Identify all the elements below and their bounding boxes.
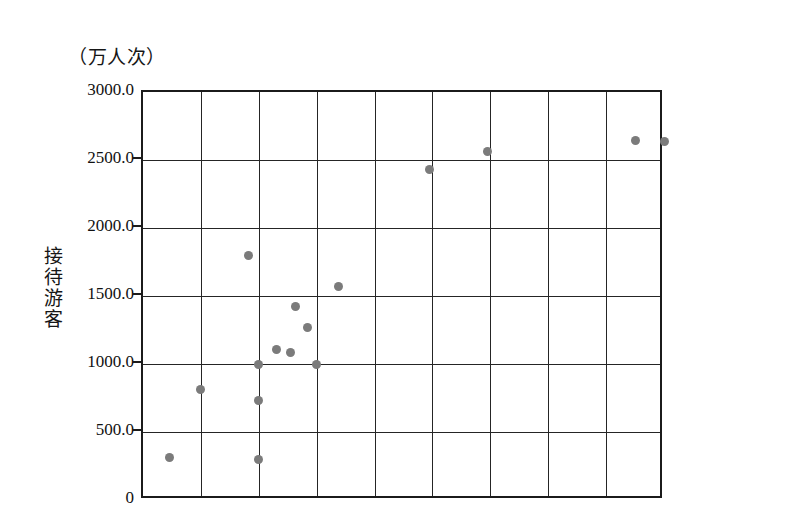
gridline-horizontal — [143, 160, 660, 161]
y-axis-tick-labels: 0500.01000.01500.02000.02500.03000.0 — [56, 0, 134, 502]
y-axis-tick-mark — [133, 225, 141, 227]
y-axis-tick-label: 2500.0 — [62, 149, 134, 166]
y-axis-tick-label: 1500.0 — [62, 285, 134, 302]
gridline-vertical — [317, 92, 318, 496]
y-axis-tick-label: 1000.0 — [62, 353, 134, 370]
data-point — [286, 348, 295, 357]
data-point — [334, 282, 343, 291]
gridline-vertical — [201, 92, 202, 496]
data-point — [244, 251, 253, 260]
data-point — [425, 165, 434, 174]
gridline-vertical — [606, 92, 607, 496]
y-axis-tick-mark — [133, 429, 141, 431]
data-point — [312, 360, 321, 369]
y-axis-tick-mark — [133, 293, 141, 295]
data-point — [291, 302, 300, 311]
gridline-vertical — [259, 92, 260, 496]
y-axis-tick-mark — [133, 361, 141, 363]
data-point — [660, 137, 669, 146]
gridline-vertical — [548, 92, 549, 496]
data-point — [196, 385, 205, 394]
data-point — [631, 136, 640, 145]
gridline-horizontal — [143, 364, 660, 365]
y-axis-tick-label: 500.0 — [62, 421, 134, 438]
y-axis-tick-label: 0 — [62, 489, 134, 506]
y-axis-tick-mark — [133, 157, 141, 159]
gridline-vertical — [432, 92, 433, 496]
y-axis-tick-label: 3000.0 — [62, 81, 134, 98]
gridline-horizontal — [143, 432, 660, 433]
gridline-horizontal — [143, 228, 660, 229]
gridline-vertical — [375, 92, 376, 496]
data-point — [165, 453, 174, 462]
data-point — [254, 396, 263, 405]
data-point — [254, 360, 263, 369]
plot-area — [141, 90, 662, 498]
gridline-horizontal — [143, 296, 660, 297]
data-point — [303, 323, 312, 332]
data-point — [272, 345, 281, 354]
data-point — [254, 455, 263, 464]
y-axis-tick-label: 2000.0 — [62, 217, 134, 234]
